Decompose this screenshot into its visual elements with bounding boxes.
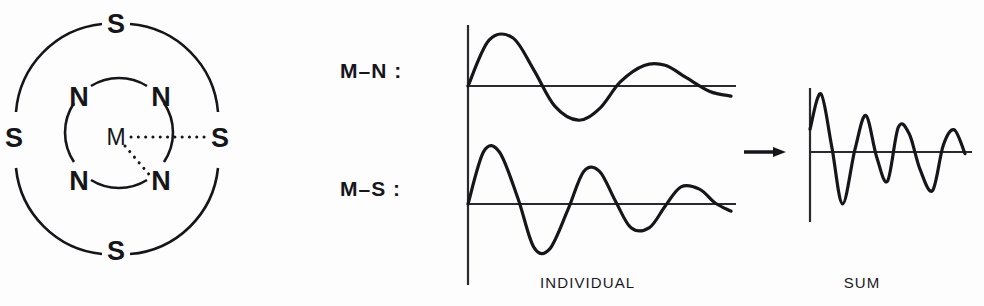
wave-trace-sum [810,94,965,204]
atom-label-m-center: M [106,124,125,150]
atom-label-s-left: S [5,123,23,153]
outer-ring-arc-top-right [130,24,218,112]
exafs-figure: S S S S N N N N M M–N : M–S : [0,0,984,306]
caption-individual: INDIVIDUAL [540,274,635,291]
atom-label-s-top: S [107,9,125,39]
inner-ring-arc-bottom [91,180,147,188]
outer-ring-arc-bottom-left [16,168,102,254]
outer-ring-arc-top-left [16,24,102,112]
atom-label-n-bottom-left: N [69,166,89,196]
atom-label-s-right: S [211,123,229,153]
atom-label-n-top-left: N [69,82,89,112]
figure-canvas: S S S S N N N N M M–N : M–S : [0,0,984,306]
coordination-shell-diagram: S S S S N N N N M [5,9,229,266]
atom-label-s-bottom: S [107,236,125,266]
inner-ring-arc-top [91,78,147,86]
wave-trace-m-n [468,34,731,120]
wave-panel: M–N : M–S : INDIVIDUAL SUM [340,25,972,291]
wave-row-label-m-n: M–N : [340,59,402,82]
wave-trace-m-s [468,146,731,254]
arrow-icon [744,147,786,157]
atom-label-n-top-right: N [151,82,171,112]
caption-sum: SUM [844,274,881,291]
atom-label-n-bottom-right: N [151,166,171,196]
bond-m-to-n-dotted [125,146,152,178]
wave-row-label-m-s: M–S : [340,177,401,200]
